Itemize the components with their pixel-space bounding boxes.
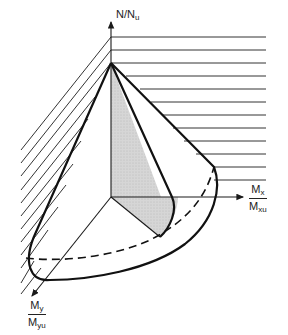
interaction-surface-diagram [0, 0, 288, 335]
mx-axis-label: Mx Mxu [249, 184, 267, 214]
my-axis-label: My Myu [28, 300, 46, 330]
n-axis-label: N/Nu [116, 9, 139, 22]
